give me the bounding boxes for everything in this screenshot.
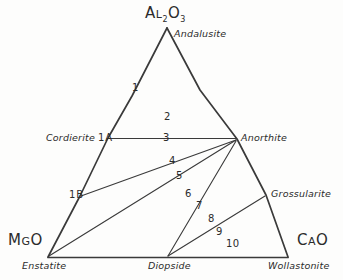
- region-number-8: 8: [208, 214, 215, 224]
- corner-label-magnesia: MGO: [8, 233, 43, 248]
- region-number-2: 2: [164, 112, 171, 122]
- mineral-label-grossularite: Grossularite: [271, 189, 331, 199]
- mineral-label-wollastonite: Wollastonite: [268, 261, 329, 271]
- calcia-c: C: [297, 231, 308, 249]
- mineral-label-cordierite: Cordierite: [46, 133, 95, 143]
- calcia-a: A: [308, 235, 316, 248]
- region-number-9: 9: [216, 227, 223, 237]
- corner-label-alumina: AL2O3: [145, 6, 186, 24]
- region-number-5: 5: [176, 171, 183, 181]
- node-marker-1b: 1B: [69, 190, 84, 200]
- calcia-o: O: [316, 231, 328, 249]
- alumina-sub3: 3: [180, 15, 186, 24]
- node-marker-1a: 1A: [98, 133, 113, 143]
- mineral-label-diopside: Diopside: [148, 261, 191, 271]
- region-number-7: 7: [196, 201, 203, 211]
- region-number-3: 3: [163, 133, 170, 143]
- mineral-label-enstatite: Enstatite: [22, 261, 66, 271]
- mineral-label-anorthite: Anorthite: [241, 133, 287, 143]
- region-number-10: 10: [226, 239, 240, 249]
- alumina-a: A: [145, 4, 156, 22]
- mineral-label-andalusite: Andalusite: [174, 29, 226, 39]
- corner-label-calcia: CAO: [297, 233, 328, 248]
- region-number-4: 4: [169, 156, 176, 166]
- magnesia-o: O: [30, 231, 42, 249]
- ternary-phase-diagram: AL2O3 MGO CAO Andalusite Cordierite Anor…: [0, 0, 343, 280]
- region-number-1: 1: [132, 83, 139, 93]
- magnesia-m: M: [8, 231, 21, 249]
- alumina-o: O: [168, 4, 180, 22]
- region-number-6: 6: [185, 189, 192, 199]
